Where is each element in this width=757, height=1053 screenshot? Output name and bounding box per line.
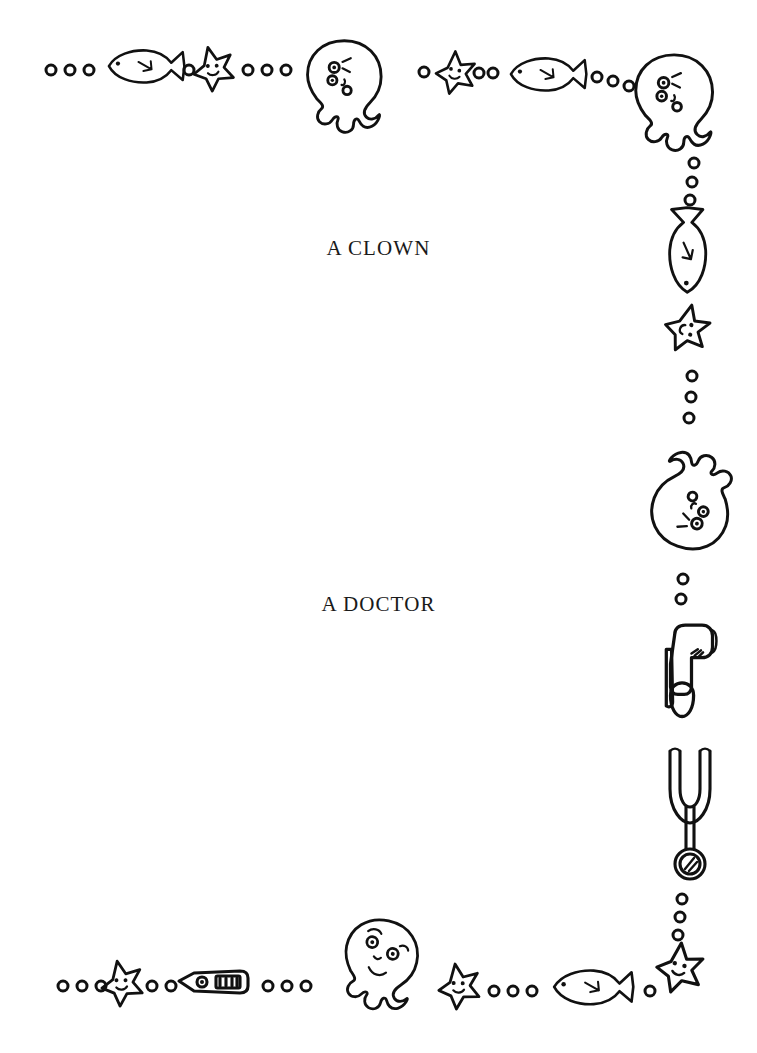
bubble-icon xyxy=(262,65,272,75)
bubble-icon xyxy=(689,158,699,168)
bubble-icon xyxy=(419,67,429,77)
border-top-row xyxy=(46,41,713,151)
bubble-icon xyxy=(84,65,94,75)
bubble-icon xyxy=(96,981,106,991)
bubble-icon xyxy=(508,986,518,996)
bubble-icon xyxy=(46,65,56,75)
starfish-icon xyxy=(99,959,143,1008)
bubble-icon xyxy=(147,981,157,991)
bubble-icon xyxy=(624,81,634,91)
bubble-icon xyxy=(592,72,602,82)
bubble-icon xyxy=(489,986,499,996)
thermometer-icon xyxy=(179,971,248,993)
bubble-icon xyxy=(488,68,498,78)
bubble-icon xyxy=(675,912,685,922)
page-title-doctor: A DOCTOR xyxy=(0,592,757,617)
bubble-icon xyxy=(687,371,697,381)
otoscope-icon xyxy=(666,625,716,716)
decorative-border xyxy=(0,0,757,1053)
bubble-icon xyxy=(282,981,292,991)
bubble-icon xyxy=(687,177,697,187)
fish-icon xyxy=(554,970,633,1004)
bubble-icon xyxy=(645,986,655,996)
starfish-icon xyxy=(437,963,480,1011)
bubble-icon xyxy=(678,574,688,584)
worksheet-page: A CLOWN A DOCTOR xyxy=(0,0,757,1053)
starfish-icon xyxy=(653,940,705,997)
bubble-icon xyxy=(243,65,253,75)
stethoscope-icon xyxy=(670,749,710,879)
bubble-icon xyxy=(677,894,687,904)
bubble-icon xyxy=(166,981,176,991)
page-title-clown: A CLOWN xyxy=(0,236,757,261)
bubble-icon xyxy=(474,68,484,78)
bubble-icon xyxy=(77,981,87,991)
starfish-icon xyxy=(659,299,713,357)
bubble-icon xyxy=(608,76,618,86)
bubble-icon xyxy=(685,195,695,205)
octopus-icon xyxy=(308,41,382,133)
octopus-icon xyxy=(335,913,424,1016)
bubble-icon xyxy=(65,65,75,75)
border-bottom-row xyxy=(58,913,705,1016)
bubble-icon xyxy=(281,65,291,75)
starfish-icon xyxy=(190,44,234,93)
bubble-icon xyxy=(673,930,683,940)
bubble-icon xyxy=(184,65,194,75)
bubble-icon xyxy=(58,981,68,991)
bubble-icon xyxy=(684,413,694,423)
border-right-column xyxy=(641,158,746,940)
fish-icon xyxy=(511,58,586,90)
bubble-icon xyxy=(527,986,537,996)
bubble-icon xyxy=(686,392,696,402)
starfish-icon xyxy=(434,50,476,96)
octopus-icon xyxy=(636,55,713,151)
bubble-icon xyxy=(263,981,273,991)
fish-icon xyxy=(109,50,184,82)
bubble-icon xyxy=(301,981,311,991)
octopus-icon xyxy=(641,443,746,559)
